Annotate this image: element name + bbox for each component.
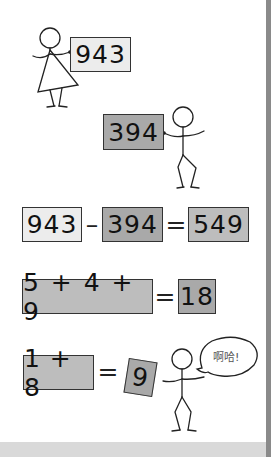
subtrahend-box: 394 (102, 207, 163, 242)
final-digit-value: 9 (130, 362, 151, 393)
bottom-strip (0, 442, 266, 457)
man-figure-aha-icon (163, 349, 204, 431)
difference-box: 549 (188, 207, 249, 242)
man-figure-icon (163, 107, 204, 188)
final-digit-card: 9 (123, 358, 157, 397)
sum-expression-box: 5 + 4 + 9 (22, 279, 153, 314)
reduce-expression-box: 1 + 8 (23, 355, 94, 390)
sum-expression: 5 + 4 + 9 (23, 268, 152, 326)
man-number: 394 (108, 118, 159, 147)
minuend-value: 943 (27, 210, 78, 239)
equals-sign-3: = (98, 355, 118, 388)
reduce-expression: 1 + 8 (24, 344, 93, 402)
woman-number: 943 (75, 40, 126, 69)
digit-sum-value: 18 (180, 282, 214, 311)
subtrahend-value: 394 (107, 210, 158, 239)
minus-sign: – (84, 207, 100, 242)
digit-sum-box: 18 (178, 279, 216, 314)
man-number-card: 394 (103, 114, 164, 150)
equals-sign-1: = (166, 207, 186, 242)
difference-value: 549 (193, 210, 244, 239)
equals-sign-2: = (155, 279, 175, 314)
illustration-page: 943 394 943 – 394 = 549 5 + 4 + 9 = 18 1… (0, 0, 266, 442)
page-edge-bar (266, 0, 271, 457)
minuend-box: 943 (22, 207, 82, 242)
speech-bubble-text: 啊哈! (213, 348, 239, 364)
woman-number-card: 943 (70, 37, 131, 72)
